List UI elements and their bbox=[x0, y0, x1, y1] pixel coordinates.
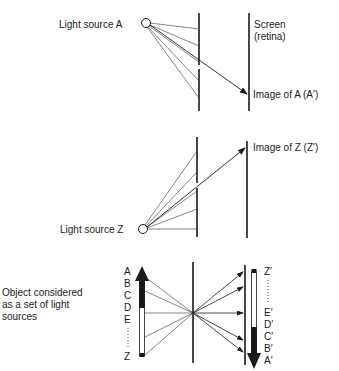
image-point-b: B′ bbox=[264, 343, 273, 354]
arrow-icon bbox=[193, 272, 243, 313]
pinhole-diagram: Light source A Screen (retina) Image of … bbox=[0, 0, 339, 371]
light-source-a-label: Light source A bbox=[59, 19, 123, 30]
arrow-icon bbox=[193, 287, 243, 313]
light-source-z-label: Light source Z bbox=[60, 224, 123, 235]
image-point-e: E′ bbox=[264, 307, 273, 318]
image-point-z: Z′ bbox=[264, 266, 272, 277]
object-point-d: D bbox=[124, 302, 131, 313]
panel-light-source-z: Light source Z Image of Z (Z′) bbox=[60, 137, 318, 238]
object-point-z: Z bbox=[124, 351, 130, 362]
panel-light-source-a: Light source A Screen (retina) Image of … bbox=[59, 13, 318, 111]
retina-label: (retina) bbox=[254, 31, 286, 42]
upward-arrow-icon bbox=[135, 266, 149, 357]
screen-label: Screen bbox=[254, 19, 286, 30]
object-point-b: B bbox=[124, 278, 131, 289]
image-of-a-label: Image of A (A′) bbox=[253, 89, 318, 100]
object-description-line1: Object considered bbox=[2, 287, 83, 298]
image-point-c: C′ bbox=[264, 331, 273, 342]
object-description-line3: sources bbox=[2, 311, 37, 322]
image-point-d: D′ bbox=[264, 319, 273, 330]
object-description-line2: as a set of light bbox=[2, 299, 69, 310]
object-point-e: E bbox=[124, 314, 131, 325]
rays-image bbox=[193, 272, 243, 352]
arrow-icon bbox=[193, 313, 243, 340]
rays-z bbox=[145, 151, 197, 229]
rays-a bbox=[147, 23, 199, 98]
image-of-z-label: Image of Z (Z′) bbox=[253, 142, 318, 153]
rays-object bbox=[145, 277, 193, 355]
arrow-icon bbox=[147, 148, 245, 227]
object-point-c: C bbox=[124, 290, 131, 301]
image-point-a: A′ bbox=[264, 355, 273, 366]
object-point-a: A bbox=[124, 266, 131, 277]
arrow-icon bbox=[193, 313, 243, 352]
downward-arrow-icon bbox=[247, 269, 261, 369]
panel-object: Object considered as a set of light sour… bbox=[2, 262, 273, 369]
